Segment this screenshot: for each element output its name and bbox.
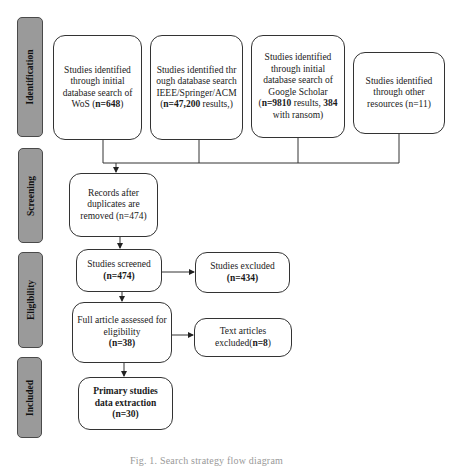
box-full-article-assessed: Full article assessed for eligibility(n=…	[72, 302, 172, 363]
box-wos-search: Studies identified through initial datab…	[53, 35, 142, 140]
box-google-scholar-search: Studies identified through initial datab…	[251, 35, 345, 138]
box-studies-screened: Studies screened(n=474)	[76, 249, 162, 292]
box-text-articles-excluded: Text articles excluded(n=8)	[194, 318, 292, 357]
box-primary-studies: Primary studies data extraction (n=30)	[78, 377, 173, 430]
box-records-after-duplicates: Records after duplicates are removed (n=…	[69, 173, 158, 237]
box-other-resources: Studies identified through other resourc…	[353, 52, 445, 134]
box-studies-excluded: Studies excluded(n=434)	[195, 252, 290, 293]
box-ieee-search: Studies identified through database sear…	[150, 35, 243, 140]
figure-caption: Fig. 1. Search strategy flow diagram	[130, 455, 283, 466]
